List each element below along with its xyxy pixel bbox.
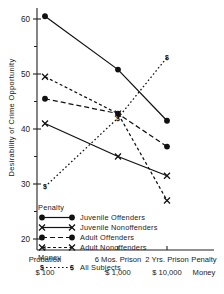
- data-series: [42, 121, 170, 179]
- data-point-marker-x: [42, 74, 48, 80]
- data-series: [42, 74, 170, 204]
- data-point-marker-circle: [69, 235, 75, 241]
- chart-plot-area: 2030405060 $$$ Probation6 Mos. Prison2 Y…: [0, 0, 224, 294]
- x-tick-label-money: $ 100: [35, 268, 54, 277]
- x-tick-label-penalty: 2 Yrs. Prison: [145, 255, 188, 264]
- x-tick-label-money: $ 10,000: [152, 268, 182, 277]
- legend-entry: Adult Offenders: [39, 233, 134, 242]
- data-point-marker-circle: [42, 13, 48, 19]
- data-point-marker-dollar: $: [40, 264, 44, 272]
- data-point-marker-x: [164, 198, 170, 204]
- data-point-marker-x: [164, 173, 170, 179]
- data-series-layer: $$$: [42, 13, 170, 203]
- data-point-marker-dollar: $: [70, 264, 74, 272]
- y-tick-label: 30: [21, 180, 31, 189]
- data-point-marker-dollar: $: [43, 183, 47, 191]
- data-point-marker-x: [115, 154, 121, 160]
- data-point-marker-dollar: $: [116, 115, 120, 123]
- legend-entry: Juvenile Offenders: [39, 213, 145, 222]
- data-point-marker-dollar: $: [165, 54, 169, 62]
- legend-entry-label: All Subjects: [80, 263, 121, 272]
- legend-entry-label: Juvenile Nonoffenders: [80, 223, 158, 232]
- y-axis: [33, 8, 41, 250]
- y-tick-label: 60: [21, 15, 31, 24]
- data-point-marker-x: [42, 121, 48, 127]
- legend-entry: Juvenile Nonoffenders: [39, 223, 158, 232]
- x-axis-row-label-penalty: Penalty: [191, 255, 217, 264]
- legend-group-heading: Money: [38, 253, 61, 262]
- data-point-marker-circle: [69, 215, 75, 221]
- y-tick-label: 50: [21, 70, 31, 79]
- y-tick-labels: 2030405060: [21, 15, 31, 244]
- data-point-marker-circle: [39, 215, 45, 221]
- legend-group-heading: Penalty: [38, 203, 64, 212]
- x-axis-row-label-money: Money: [193, 268, 216, 277]
- legend-entry: Adult Nonoffenders: [39, 243, 147, 252]
- data-point-marker-circle: [39, 235, 45, 241]
- y-tick-label: 20: [21, 235, 31, 244]
- legend-entry-label: Juvenile Offenders: [80, 213, 145, 222]
- data-point-marker-circle: [164, 118, 170, 124]
- data-series: $$$: [43, 54, 169, 191]
- series-line: [45, 99, 167, 147]
- series-line: [45, 16, 167, 121]
- chart-figure: Desirability of Crime Opportunity 203040…: [0, 0, 224, 294]
- y-tick-label: 40: [21, 125, 31, 134]
- data-point-marker-circle: [42, 96, 48, 102]
- data-point-marker-circle: [115, 67, 121, 73]
- legend-entry-label: Adult Nonoffenders: [80, 243, 147, 252]
- legend-entry-label: Adult Offenders: [80, 233, 134, 242]
- data-point-marker-circle: [164, 144, 170, 150]
- series-line: [45, 77, 167, 201]
